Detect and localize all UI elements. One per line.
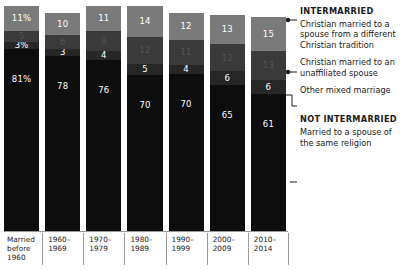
bar-column[interactable]: 10 6 3 78	[45, 6, 80, 231]
segment-value-label: 81%	[12, 75, 32, 84]
bar-segment-other-mixed: 4	[86, 51, 121, 60]
bar-group: 11% 5 3% 81% 10 6	[4, 6, 286, 231]
category-line: 2009	[213, 244, 245, 253]
legend-item-other-mixed: Other mixed marriage	[300, 85, 404, 95]
category-label-1990-1999: 1990– 1999	[169, 233, 204, 269]
bar-segment-unaffiliated: 6	[45, 35, 80, 49]
bar-segment-different-tradition: 11	[86, 6, 121, 31]
segment-value-label: 70	[181, 100, 192, 109]
bar-column[interactable]: 15 13 6 61	[251, 6, 286, 231]
segment-value-label: 76	[98, 86, 109, 95]
stacked-bar-chart: 11% 5 3% 81% 10 6	[0, 0, 404, 271]
bar-segment-same-religion: 61	[251, 94, 286, 231]
bar-segment-same-religion: 70	[169, 74, 204, 232]
bar-segment-different-tradition: 10	[45, 13, 80, 36]
segment-value-label: 4	[101, 51, 107, 60]
segment-value-label: 11	[98, 14, 109, 23]
bar-segment-other-mixed: 6	[251, 80, 286, 94]
bar-segment-unaffiliated: 9	[86, 31, 121, 51]
segment-value-label: 3	[60, 49, 66, 56]
legend-item-unaffiliated: Christian married to an unaffiliated spo…	[300, 57, 404, 78]
bar-segment-other-mixed: 5	[127, 64, 162, 75]
bar-segment-different-tradition: 15	[251, 17, 286, 51]
segment-value-label: 12	[139, 46, 150, 55]
bar-segment-unaffiliated: 5	[4, 31, 39, 42]
category-line: 1970–	[89, 235, 121, 244]
plot-area: 11% 5 3% 81% 10 6	[4, 6, 286, 231]
legend-item-different-tradition: Christian married to a spouse from a dif…	[300, 19, 404, 50]
legend-item-same-religion: Married to a spouse of the same religion	[300, 127, 404, 148]
bar-segment-unaffiliated: 11	[169, 40, 204, 65]
bar-segment-unaffiliated: 12	[210, 44, 245, 71]
bar-segment-same-religion: 81%	[4, 49, 39, 231]
axis-baseline	[4, 231, 288, 232]
bar-segment-unaffiliated: 13	[251, 51, 286, 80]
segment-value-label: 11	[181, 48, 192, 57]
category-label-1960-1969: 1960– 1969	[45, 233, 80, 269]
category-line: 1960–	[48, 235, 80, 244]
axis-edge-right	[288, 233, 289, 265]
segment-value-label: 15	[263, 30, 274, 39]
legend: INTERMARRIED Christian married to a spou…	[296, 6, 404, 155]
bar-column[interactable]: 12 11 4 70	[169, 6, 204, 231]
bar-segment-other-mixed: 4	[169, 65, 204, 74]
category-line: 1980–	[130, 235, 162, 244]
segment-value-label: 5	[142, 65, 148, 74]
segment-value-label: 6	[224, 74, 230, 83]
segment-value-label: 13	[222, 25, 233, 34]
bar-column[interactable]: 14 12 5 70	[127, 6, 162, 231]
segment-value-label: 11%	[12, 14, 32, 23]
segment-value-label: 6	[266, 83, 272, 92]
category-label-married-before-1960: Married before 1960	[4, 233, 39, 269]
segment-value-label: 65	[222, 111, 233, 120]
bar-segment-different-tradition: 14	[127, 6, 162, 37]
category-label-1970-1979: 1970– 1979	[86, 233, 121, 269]
legend-heading-not-intermarried: NOT INTERMARRIED	[300, 114, 404, 124]
legend-spacer	[296, 102, 404, 114]
bar-column[interactable]: 13 12 6 65	[210, 6, 245, 231]
segment-value-label: 4	[183, 65, 189, 74]
bar-segment-different-tradition: 12	[169, 13, 204, 40]
bar-segment-other-mixed: 6	[210, 71, 245, 85]
segment-value-label: 78	[57, 82, 68, 91]
category-axis: Married before 1960 1960– 1969 1970– 197…	[4, 233, 286, 269]
segment-value-label: 61	[263, 120, 274, 129]
segment-value-label: 5	[19, 32, 25, 41]
bar-segment-different-tradition: 11%	[4, 6, 39, 31]
bar-segment-unaffiliated: 12	[127, 37, 162, 64]
bar-column[interactable]: 11 9 4 76	[86, 6, 121, 231]
bar-column[interactable]: 11% 5 3% 81%	[4, 6, 39, 231]
segment-value-label: 70	[139, 101, 150, 110]
category-line: 1990–	[172, 235, 204, 244]
segment-value-label: 9	[101, 37, 107, 46]
category-label-2000-2009: 2000– 2009	[210, 233, 245, 269]
segment-value-label: 3%	[15, 42, 29, 49]
bar-segment-other-mixed: 3	[45, 49, 80, 56]
segment-value-label: 13	[263, 61, 274, 70]
bar-segment-same-religion: 76	[86, 60, 121, 231]
category-label-1980-1989: 1980– 1989	[127, 233, 162, 269]
category-line: 2014	[254, 244, 286, 253]
category-line: Married	[7, 235, 39, 244]
legend-heading-intermarried: INTERMARRIED	[300, 6, 404, 16]
bar-segment-other-mixed: 3%	[4, 42, 39, 49]
category-line: 1999	[172, 244, 204, 253]
bar-segment-same-religion: 65	[210, 85, 245, 231]
category-line: 2010–	[254, 235, 286, 244]
segment-value-label: 12	[222, 54, 233, 63]
category-line: before	[7, 244, 39, 253]
category-line: 2000–	[213, 235, 245, 244]
segment-value-label: 6	[60, 38, 66, 47]
category-line: 1989	[130, 244, 162, 253]
category-line: 1969	[48, 244, 80, 253]
category-line: 1960	[7, 253, 39, 262]
segment-value-label: 12	[181, 22, 192, 31]
category-line: 1979	[89, 244, 121, 253]
segment-value-label: 10	[57, 20, 68, 29]
bar-segment-same-religion: 78	[45, 56, 80, 232]
category-label-2010-2014: 2010– 2014	[251, 233, 286, 269]
segment-value-label: 14	[139, 17, 150, 26]
bar-segment-different-tradition: 13	[210, 15, 245, 44]
bar-segment-same-religion: 70	[127, 75, 162, 231]
